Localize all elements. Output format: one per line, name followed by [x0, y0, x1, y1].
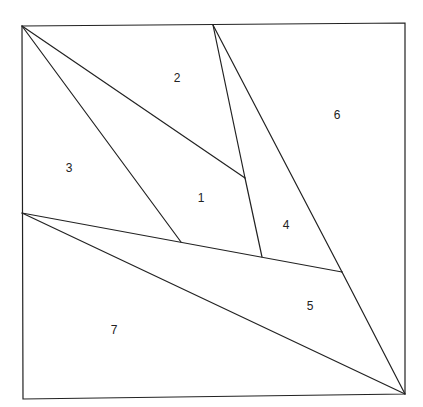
region-label-2: 2 — [174, 71, 181, 85]
region-labels: 1 2 3 4 5 6 7 — [66, 71, 341, 337]
region-label-3: 3 — [66, 161, 73, 175]
line-top-to-right-point — [213, 25, 342, 272]
region-label-5: 5 — [307, 299, 314, 313]
outer-square — [22, 23, 405, 399]
region-label-1: 1 — [198, 191, 205, 205]
line-top-to-junction — [213, 25, 245, 178]
line-left-to-corner — [22, 213, 405, 394]
line-junction-down — [245, 178, 262, 257]
region-label-4: 4 — [283, 218, 290, 232]
partition-diagram: 1 2 3 4 5 6 7 — [0, 0, 423, 407]
region-label-7: 7 — [111, 323, 118, 337]
line-right-point-to-corner — [342, 272, 405, 394]
line-topleft-to-junction — [22, 26, 245, 178]
line-topleft-to-mid — [22, 26, 181, 242]
line-left-to-right-point — [22, 213, 342, 272]
dividing-lines — [22, 25, 405, 394]
region-label-6: 6 — [334, 108, 341, 122]
